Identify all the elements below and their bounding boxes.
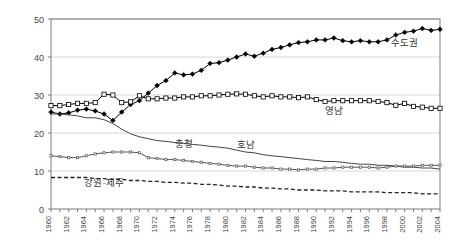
data-point-영남-1973 xyxy=(164,96,168,100)
series-label-강원·제주: 강원·제주 xyxy=(84,177,123,188)
y-axis-tick-20: 20 xyxy=(34,129,44,139)
y-axis-tick-10: 10 xyxy=(34,167,44,177)
x-axis-tick-1968: 1968 xyxy=(115,216,124,233)
data-point-수도권-1988 xyxy=(296,40,301,45)
data-point-충청-1988 xyxy=(297,169,299,171)
data-point-수도권-1990 xyxy=(314,38,319,43)
data-point-영남-1980 xyxy=(226,92,230,96)
data-point-충청-1962 xyxy=(68,157,70,159)
data-point-영남-1998 xyxy=(385,101,389,105)
data-point-충청-2001 xyxy=(412,165,414,167)
data-point-영남-1966 xyxy=(102,92,106,96)
x-axis-tick-1960: 1960 xyxy=(44,216,53,233)
y-axis-tick-40: 40 xyxy=(34,53,44,63)
data-point-수도권-1987 xyxy=(287,42,292,47)
series-line-수도권 xyxy=(51,29,440,121)
data-point-수도권-1995 xyxy=(358,38,363,43)
data-point-충청-1961 xyxy=(59,155,61,157)
data-point-수도권-1994 xyxy=(349,39,354,44)
data-point-충청-1998 xyxy=(386,166,388,168)
data-point-영남-1975 xyxy=(182,95,186,99)
data-point-충청-1977 xyxy=(200,161,202,163)
y-axis-tick-50: 50 xyxy=(34,15,44,25)
x-axis-tick-1964: 1964 xyxy=(79,216,88,233)
population-share-line-chart: 0102030405019601962196419661968197019721… xyxy=(0,0,457,251)
data-point-영남-1988 xyxy=(296,96,300,100)
data-point-충청-1960 xyxy=(50,155,52,157)
data-point-영남-1987 xyxy=(288,95,292,99)
data-point-영남-1990 xyxy=(314,97,318,101)
series-label-수도권: 수도권 xyxy=(391,37,418,48)
data-point-수도권-1992 xyxy=(332,36,337,41)
data-point-충청-1992 xyxy=(333,167,335,169)
data-point-수도권-1986 xyxy=(278,45,283,50)
x-axis-tick-1988: 1988 xyxy=(292,216,301,233)
data-point-영남-1963 xyxy=(75,101,79,105)
data-point-수도권-1984 xyxy=(261,51,266,56)
data-point-영남-1986 xyxy=(279,95,283,99)
data-point-영남-1971 xyxy=(146,97,150,101)
series-label-호남: 호남 xyxy=(237,139,255,150)
data-point-영남-1978 xyxy=(208,94,212,98)
data-point-수도권-1980 xyxy=(225,58,230,63)
data-point-충청-1971 xyxy=(147,157,149,159)
data-point-충청-1997 xyxy=(377,167,379,169)
data-point-충청-1970 xyxy=(138,152,140,154)
data-point-영남-2003 xyxy=(429,106,433,110)
data-point-영남-1972 xyxy=(155,97,159,101)
data-point-충청-2004 xyxy=(439,164,441,166)
data-point-충청-1979 xyxy=(218,163,220,165)
data-point-수도권-2003 xyxy=(429,28,434,33)
x-axis-tick-1978: 1978 xyxy=(203,216,212,233)
data-point-충청-1996 xyxy=(368,166,370,168)
data-point-충청-1982 xyxy=(244,165,246,167)
data-point-충청-1987 xyxy=(289,168,291,170)
chart-canvas: 0102030405019601962196419661968197019721… xyxy=(0,0,457,251)
data-point-수도권-1975 xyxy=(181,72,186,77)
data-point-영남-1997 xyxy=(376,99,380,103)
data-point-영남-1970 xyxy=(137,94,141,98)
data-point-영남-2001 xyxy=(411,104,415,108)
data-point-영남-2004 xyxy=(438,106,442,110)
data-point-충청-1974 xyxy=(174,159,176,161)
data-point-수도권-2004 xyxy=(438,27,443,32)
x-axis-tick-1986: 1986 xyxy=(274,216,283,233)
data-point-충청-1969 xyxy=(129,151,131,153)
x-axis-tick-2000: 2000 xyxy=(398,216,407,233)
data-point-영남-1969 xyxy=(128,100,132,104)
y-axis-tick-30: 30 xyxy=(34,91,44,101)
data-point-수도권-1989 xyxy=(305,39,310,44)
x-axis-tick-1992: 1992 xyxy=(327,216,336,233)
data-point-영남-1982 xyxy=(243,92,247,96)
data-point-충청-1975 xyxy=(183,159,185,161)
data-point-충청-1973 xyxy=(165,159,167,161)
data-point-영남-1991 xyxy=(323,99,327,103)
data-point-충청-1981 xyxy=(236,165,238,167)
x-axis-tick-2004: 2004 xyxy=(433,216,442,233)
data-point-충청-1990 xyxy=(315,168,317,170)
data-point-수도권-1976 xyxy=(190,72,195,77)
data-point-충청-1964 xyxy=(85,155,87,157)
x-axis-tick-1996: 1996 xyxy=(362,216,371,233)
data-point-영남-1962 xyxy=(67,102,71,106)
data-point-영남-1968 xyxy=(120,101,124,105)
data-point-수도권-1979 xyxy=(217,60,222,65)
x-axis-tick-1976: 1976 xyxy=(185,216,194,233)
data-point-충청-1968 xyxy=(121,151,123,153)
x-axis-tick-1970: 1970 xyxy=(132,216,141,233)
data-point-영남-1992 xyxy=(332,99,336,103)
data-point-영남-1961 xyxy=(58,104,62,108)
data-point-수도권-1964 xyxy=(84,107,89,112)
data-point-수도권-1996 xyxy=(367,39,372,44)
data-point-수도권-1965 xyxy=(93,109,98,114)
data-point-영남-1995 xyxy=(358,99,362,103)
data-point-수도권-1998 xyxy=(385,38,390,43)
data-point-영남-2000 xyxy=(403,101,407,105)
x-axis-tick-1998: 1998 xyxy=(380,216,389,233)
data-point-영남-1994 xyxy=(349,99,353,103)
x-axis-tick-1990: 1990 xyxy=(309,216,318,233)
data-point-영남-1960 xyxy=(49,104,53,108)
data-point-영남-1985 xyxy=(270,94,274,98)
data-point-충청-1993 xyxy=(342,166,344,168)
data-point-수도권-1982 xyxy=(243,52,248,57)
